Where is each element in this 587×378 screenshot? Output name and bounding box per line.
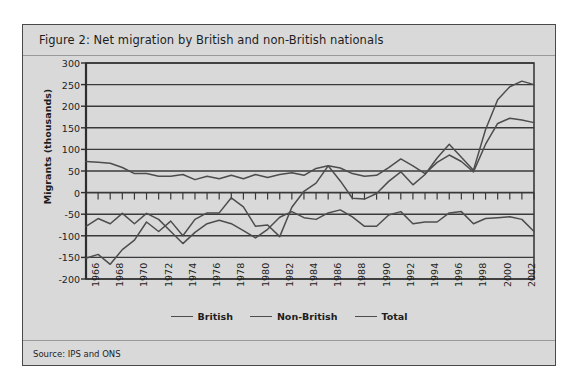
x-tick-label: 1972 <box>163 263 174 287</box>
x-tick-label: 1994 <box>429 263 440 287</box>
x-tick-label: 1970 <box>138 263 149 287</box>
x-tick-label: 1990 <box>381 263 392 287</box>
legend-line-icon <box>171 316 193 317</box>
x-axis-tick-labels: 1966196819701972197419761978198019821984… <box>23 55 555 343</box>
figure-panel: Figure 2: Net migration by British and n… <box>22 24 556 366</box>
legend-entry[interactable]: British <box>171 311 233 322</box>
x-tick-label: 1986 <box>332 263 343 287</box>
x-tick-label: 1996 <box>453 263 464 287</box>
legend-label: British <box>198 311 233 322</box>
x-tick-label: 1966 <box>90 263 101 287</box>
source-divider <box>23 340 555 341</box>
legend-line-icon <box>355 316 377 317</box>
x-tick-label: 1982 <box>284 263 295 287</box>
legend-entry[interactable]: Total <box>355 311 408 322</box>
legend-label: Non-British <box>277 311 338 322</box>
figure-title: Figure 2: Net migration by British and n… <box>39 33 384 47</box>
x-tick-label: 1968 <box>114 263 125 287</box>
x-tick-label: 2002 <box>526 263 537 287</box>
legend-label: Total <box>382 311 408 322</box>
x-tick-label: 1978 <box>235 263 246 287</box>
x-tick-label: 2000 <box>502 263 513 287</box>
x-tick-label: 1992 <box>405 263 416 287</box>
legend-line-icon <box>250 316 272 317</box>
x-tick-label: 1974 <box>187 263 198 287</box>
x-tick-label: 1988 <box>356 263 367 287</box>
x-tick-label: 1984 <box>308 263 319 287</box>
chart-area: Migrants (thousands) 300250200150100500-… <box>23 55 555 343</box>
figure-source: Source: IPS and ONS <box>33 349 121 359</box>
chart-legend: BritishNon-BritishTotal <box>23 311 555 322</box>
x-tick-label: 1976 <box>211 263 222 287</box>
x-tick-label: 1980 <box>260 263 271 287</box>
legend-entry[interactable]: Non-British <box>250 311 338 322</box>
x-tick-label: 1998 <box>477 263 488 287</box>
